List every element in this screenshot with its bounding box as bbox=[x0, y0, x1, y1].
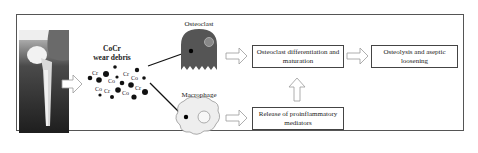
debris-title-line1: CoCr bbox=[88, 44, 136, 53]
svg-text:Co: Co bbox=[108, 78, 115, 84]
svg-text:Cr: Cr bbox=[135, 85, 141, 91]
debris-title-line2: wear debris bbox=[88, 53, 136, 62]
arrow-macrophage-to-mediators bbox=[226, 110, 247, 126]
svg-text:Co: Co bbox=[131, 75, 138, 81]
macrophage-cell-icon bbox=[176, 97, 220, 134]
osteolysis-box: Osteolysis and aseptic loosening bbox=[371, 45, 458, 68]
diagram-graphics: Cr Co Cr Co Co Cr Co Cr bbox=[0, 0, 478, 153]
arrow-differentiation-to-osteolysis bbox=[347, 48, 368, 64]
svg-text:Cr: Cr bbox=[104, 88, 110, 94]
arrow-mediators-to-differentiation bbox=[289, 78, 305, 101]
differentiation-box: Osteoclast differentiation and maturatio… bbox=[252, 45, 344, 68]
mediators-box: Release of proinflammatory mediators bbox=[252, 107, 344, 130]
svg-text:Co: Co bbox=[95, 86, 102, 92]
arrow-xray-to-debris bbox=[62, 75, 82, 93]
debris-title: CoCr wear debris bbox=[88, 44, 136, 62]
svg-text:Cr: Cr bbox=[92, 70, 98, 76]
arrow-osteoclast-to-differentiation bbox=[226, 48, 247, 64]
svg-text:Cr: Cr bbox=[123, 71, 129, 77]
osteoclast-cell-icon bbox=[181, 29, 217, 70]
osteoclast-label: Osteoclast bbox=[180, 20, 218, 28]
svg-text:Co: Co bbox=[122, 90, 129, 96]
macrophage-label: Macrophage bbox=[175, 91, 223, 99]
